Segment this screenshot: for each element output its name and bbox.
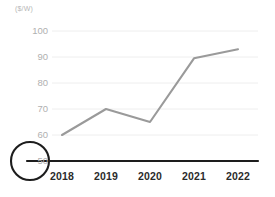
y-tick-label-50: 50 — [22, 156, 48, 166]
line-chart: ($/W) 100 90 80 70 60 50 2018 2019 2020 … — [0, 0, 275, 197]
y-tick-label-80: 80 — [22, 78, 48, 88]
x-tick-label-2022: 2022 — [226, 170, 250, 182]
y-tick-label-90: 90 — [22, 52, 48, 62]
y-tick-label-70: 70 — [22, 104, 48, 114]
x-tick-label-2020: 2020 — [138, 170, 162, 182]
gridlines-group — [52, 31, 258, 135]
y-tick-label-60: 60 — [22, 130, 48, 140]
x-tick-label-2019: 2019 — [94, 170, 118, 182]
x-tick-label-2021: 2021 — [182, 170, 206, 182]
data-series-line — [62, 49, 238, 135]
x-tick-label-2018: 2018 — [50, 170, 74, 182]
y-tick-label-100: 100 — [22, 26, 48, 36]
